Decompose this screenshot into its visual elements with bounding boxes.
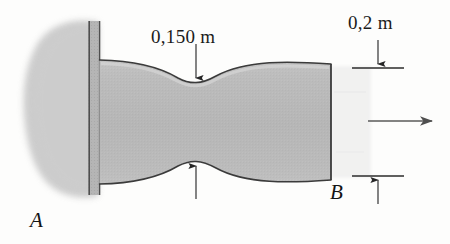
wall-mass-blob <box>23 20 98 197</box>
waist-dimension-label: 0,150 m <box>151 26 215 48</box>
figure-canvas <box>0 0 450 244</box>
hourglass-bar-body <box>100 60 332 184</box>
wall-plate <box>89 21 101 195</box>
bar-ghost-extension <box>331 66 371 178</box>
end-dimension-label: 0,2 m <box>348 12 393 34</box>
engineering-figure: 0,150 m 0,2 m A B <box>0 0 450 244</box>
point-b-label: B <box>330 180 343 205</box>
point-a-label: A <box>30 208 43 233</box>
